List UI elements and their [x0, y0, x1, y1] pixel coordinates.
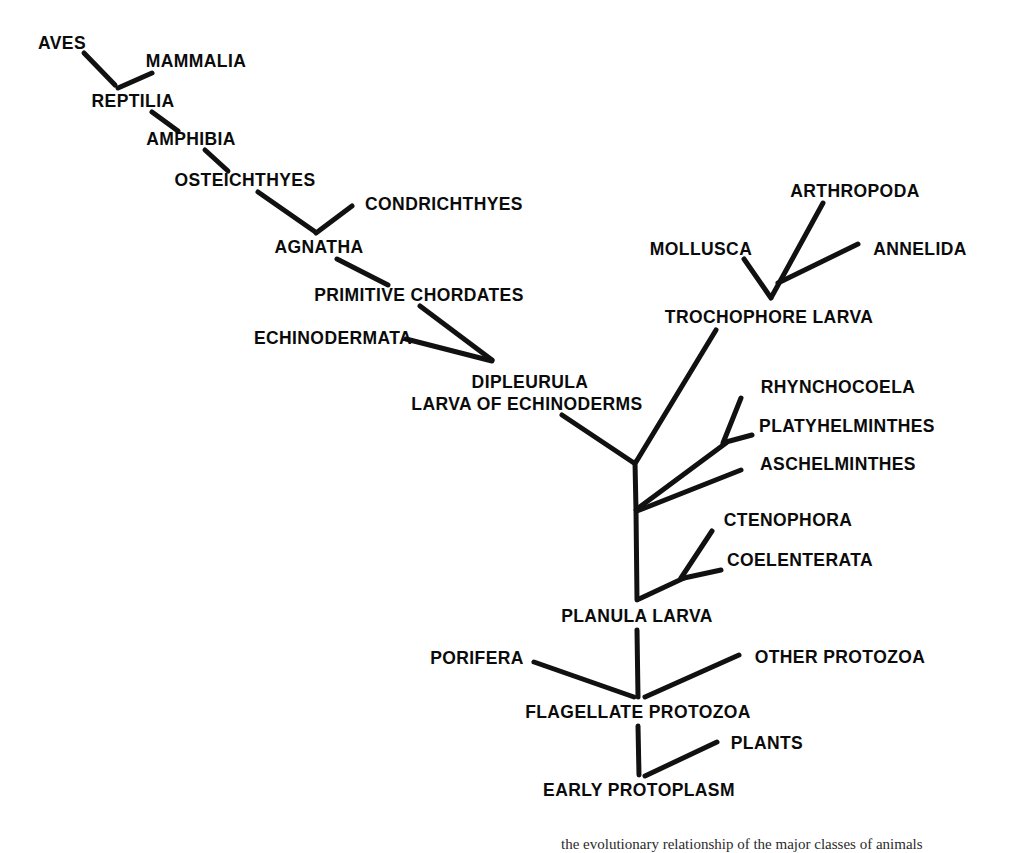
node-label-echinodermata: ECHINODERMATA	[254, 329, 412, 347]
node-label-early-protoplasm: EARLY PROTOPLASM	[543, 781, 735, 799]
node-label-primitive-chordates: PRIMITIVE CHORDATES	[314, 286, 524, 304]
node-label-agnatha: AGNATHA	[275, 238, 364, 256]
node-label-flagellate-protozoa: FLAGELLATE PROTOZOA	[525, 703, 751, 721]
trunk-bilateria-wormnode	[635, 462, 636, 510]
branch-aschelminthes-wormnode	[637, 470, 741, 511]
node-label-other-protozoa: OTHER PROTOZOA	[755, 648, 926, 666]
node-label-amphibia: AMPHIBIA	[146, 130, 236, 148]
figure-caption: the evolutionary relationship of the maj…	[561, 836, 923, 853]
node-label-trochophore-larva: TROCHOPHORE LARVA	[665, 308, 873, 326]
node-label-dipleurula: DIPLEURULA	[472, 373, 589, 391]
node-label-annelida: ANNELIDA	[873, 240, 967, 258]
branch-amphibia-osteichthyes	[205, 150, 228, 171]
node-label-arthropoda: ARTHROPODA	[790, 182, 919, 200]
trunk-flagellate-protoplasm	[638, 726, 639, 775]
branch-trochophore-bilateria	[636, 330, 716, 462]
branch-porifera-flagellate	[534, 662, 634, 697]
node-label-planula-larva: PLANULA LARVA	[561, 607, 713, 625]
node-label-aves: AVES	[38, 34, 86, 52]
node-label-rhynchocoela: RHYNCHOCOELA	[761, 378, 916, 396]
branch-dipleurula-bilateria	[562, 415, 634, 463]
branch-osteichthyes-agnatha	[258, 192, 314, 231]
branch-plants-protoplasm	[645, 742, 717, 776]
node-label-platyhelminthes: PLATYHELMINTHES	[759, 417, 935, 435]
branch-condrichthyes-agnatha	[316, 206, 352, 233]
node-label-aschelminthes: ASCHELMINTHES	[760, 455, 916, 473]
node-label-mollusca: MOLLUSCA	[650, 240, 752, 258]
phylogenetic-tree-figure: AVES MAMMALIA REPTILIA AMPHIBIA OSTEICHT…	[0, 0, 1016, 853]
node-label-porifera: PORIFERA	[430, 649, 524, 667]
branch-otherprotozoa-flagellate	[645, 655, 739, 697]
node-label-osteichthyes: OSTEICHTHYES	[175, 171, 316, 189]
branch-aves-reptilia	[84, 53, 115, 85]
node-label-mammalia: MAMMALIA	[146, 52, 246, 70]
branch-agnatha-chordates	[337, 259, 388, 285]
branch-platyhelminthes-wormjoin	[726, 435, 752, 442]
node-label-reptilia: REPTILIA	[92, 92, 175, 110]
branch-mammalia-reptilia	[118, 73, 152, 88]
branch-wormjoin-wormnode	[637, 443, 726, 509]
node-label-plants: PLANTS	[731, 734, 803, 752]
node-label-ctenophora: CTENOPHORA	[724, 511, 852, 529]
node-label-condrichthyes: CONDRICHTHYES	[365, 195, 523, 213]
trunk-planula-flagellate	[637, 630, 638, 697]
branch-radiatajoin-planula	[639, 578, 684, 599]
branch-mollusca-trochophore	[744, 259, 771, 298]
branch-coelenterata-radiatajoin	[684, 570, 721, 578]
node-label-larva-of-echinoderms: LARVA OF ECHINODERMS	[411, 395, 642, 413]
trunk-wormnode-planula	[636, 510, 637, 600]
node-label-coelenterata: COELENTERATA	[727, 551, 873, 569]
